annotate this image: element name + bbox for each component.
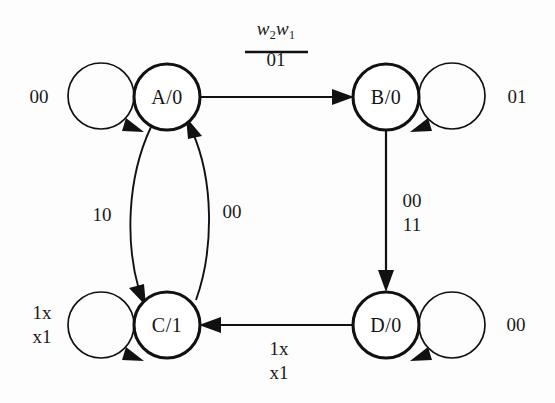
node-a-label: A/0 [151,86,183,109]
input-variable-label: w2w1 01 [257,18,296,71]
self-loop-c-arrowhead [122,347,144,361]
self-loop-c [68,292,134,358]
self-loop-d-label: 00 [507,313,526,337]
edge-b-to-d-label-line1: 00 [403,189,422,213]
edge-b-to-d-arrowhead [378,270,394,292]
self-loop-c-label-line1: 1x [33,301,52,325]
self-loop-b-label: 01 [508,85,527,109]
self-loop-a-label: 00 [30,85,49,109]
node-d-label: D/0 [370,314,402,337]
self-loop-c-label-line2: x1 [33,325,52,349]
self-loop-a-arrowhead [122,118,144,132]
self-loop-c-label: 1x x1 [33,301,52,350]
edge-a-to-b-arrowhead [332,89,354,105]
edge-b-to-d-label: 00 11 [403,189,422,238]
edge-c-to-a-label: 00 [223,200,242,224]
edge-d-to-c-label-line1: 1x [270,337,289,361]
self-loop-b [419,63,485,129]
node-c-label: C/1 [152,314,182,337]
input-label-denominator: 01 [257,49,296,71]
input-label-numerator: w2w1 [257,18,296,43]
self-loop-a [68,63,134,129]
edge-d-to-c-arrowhead [199,317,221,333]
edge-a-to-c-label: 10 [93,203,112,227]
input-label-w2: w2 [257,18,276,39]
edge-a-to-c [130,127,151,290]
edge-c-to-a [192,131,209,300]
edge-d-to-c-label-line2: x1 [270,361,289,385]
edge-b-to-d-label-line2: 11 [403,213,422,237]
edge-d-to-c-label: 1x x1 [270,337,289,386]
state-diagram: A/0 B/0 C/1 D/0 w2w1 01 00 01 1x x1 00 1… [0,0,555,403]
self-loop-d [419,292,485,358]
node-b-label: B/0 [371,86,401,109]
input-label-w1: w1 [276,18,295,39]
